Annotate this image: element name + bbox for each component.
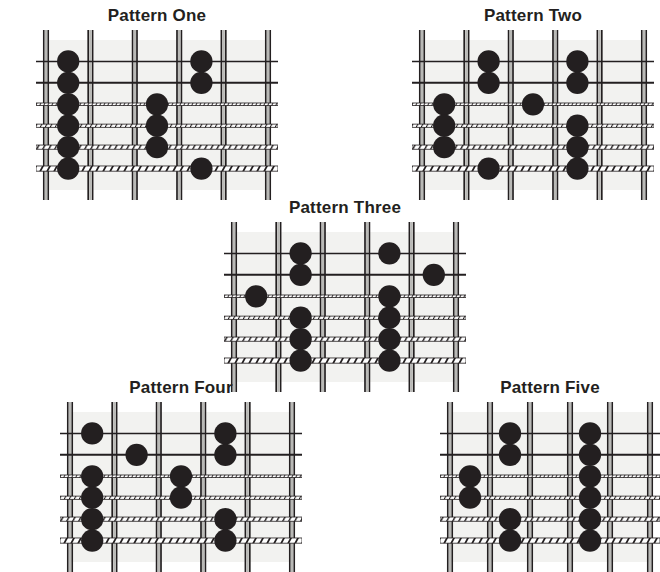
fret-dot [289, 307, 311, 329]
fret-dot [579, 508, 601, 530]
fret-dot [57, 136, 79, 158]
fret-dot [57, 50, 79, 72]
fretboard-svg [440, 402, 660, 572]
fret-dot [146, 93, 168, 115]
fretboard-diagram [224, 222, 466, 392]
fret-line [88, 30, 92, 200]
fret-dot [477, 157, 499, 179]
fret-dot [214, 444, 236, 466]
fret-dot [81, 487, 103, 509]
fret-line [365, 222, 369, 392]
fret-line [509, 30, 513, 200]
string-line [224, 337, 466, 341]
fret-dot [289, 328, 311, 350]
fret-dot [477, 72, 499, 94]
fret-dot [190, 72, 212, 94]
fret-dot [566, 72, 588, 94]
fret-dot [566, 157, 588, 179]
fret-line [290, 402, 294, 572]
fret-dot [378, 328, 400, 350]
fret-line [568, 402, 572, 572]
pattern-title: Pattern Three [224, 198, 466, 218]
string-line [440, 538, 660, 543]
fretboard-diagram [412, 30, 654, 200]
fret-line [454, 222, 458, 392]
fretboard-svg [36, 30, 278, 200]
fret-dot [289, 242, 311, 264]
fret-line [409, 222, 413, 392]
fret-line [608, 402, 612, 572]
fret-dot [190, 157, 212, 179]
fret-line [112, 402, 116, 572]
fret-dot [579, 487, 601, 509]
pattern-block-4: Pattern Four [60, 378, 302, 572]
fret-dot [499, 508, 521, 530]
fret-line [245, 402, 249, 572]
fret-dot [566, 115, 588, 137]
fret-dot [214, 422, 236, 444]
fretboard-diagram [36, 30, 278, 200]
fret-dot [433, 136, 455, 158]
fret-dot [477, 50, 499, 72]
fret-dot [499, 444, 521, 466]
fret-line [276, 222, 280, 392]
fretboard-diagram [440, 402, 660, 572]
fret-dot [170, 487, 192, 509]
fret-line [221, 30, 225, 200]
fret-dot [190, 50, 212, 72]
fret-dot [146, 136, 168, 158]
fret-dot [81, 529, 103, 551]
fret-dot [125, 444, 147, 466]
pattern-block-3: Pattern Three [224, 198, 466, 392]
fret-line [448, 402, 452, 572]
fret-line [68, 402, 72, 572]
fret-line [266, 30, 270, 200]
fret-dot [81, 508, 103, 530]
fret-dot [289, 264, 311, 286]
fret-line [420, 30, 424, 200]
fret-line [597, 30, 601, 200]
fret-line [553, 30, 557, 200]
fret-dot [57, 93, 79, 115]
fret-dot [57, 72, 79, 94]
fret-line [488, 402, 492, 572]
fret-line [528, 402, 532, 572]
fret-dot [146, 115, 168, 137]
pattern-block-5: Pattern Five [440, 378, 660, 572]
string-line [412, 166, 654, 171]
fret-dot [433, 93, 455, 115]
fret-dot [378, 242, 400, 264]
fret-dot [81, 422, 103, 444]
fret-line [157, 402, 161, 572]
string-line [224, 358, 466, 363]
fret-dot [57, 115, 79, 137]
fret-dot [378, 307, 400, 329]
fret-dot [433, 115, 455, 137]
fret-dot [499, 529, 521, 551]
pattern-title: Pattern Two [412, 6, 654, 26]
fret-dot [289, 349, 311, 371]
fretboard-svg [412, 30, 654, 200]
fret-line [232, 222, 236, 392]
fret-dot [579, 422, 601, 444]
pattern-title: Pattern One [36, 6, 278, 26]
fretboard-svg [224, 222, 466, 392]
fret-line [321, 222, 325, 392]
fretboard-svg [60, 402, 302, 572]
fret-line [44, 30, 48, 200]
fret-line [464, 30, 468, 200]
fret-line [648, 402, 652, 572]
fret-dot [579, 465, 601, 487]
pattern-block-1: Pattern One [36, 6, 278, 200]
fret-dot [378, 285, 400, 307]
fret-dot [170, 465, 192, 487]
string-line [224, 316, 466, 319]
fret-dot [566, 136, 588, 158]
fret-dot [378, 349, 400, 371]
fret-line [201, 402, 205, 572]
fret-dot [423, 264, 445, 286]
fret-dot [459, 465, 481, 487]
fret-dot [245, 285, 267, 307]
fret-line [177, 30, 181, 200]
fret-dot [214, 508, 236, 530]
